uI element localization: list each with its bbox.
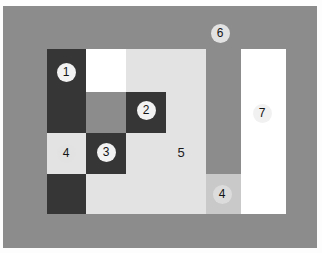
region-white-top: [86, 49, 126, 92]
region-label-5-l5: 5: [171, 144, 191, 162]
region-label-2-l2: 2: [137, 101, 156, 120]
region-light-bottom-left: [86, 174, 126, 214]
region-white-tall-column: [241, 49, 286, 214]
figure-stage: 12345674: [0, 0, 322, 253]
region-light-mid-right: [166, 92, 206, 133]
region-light-top-right: [126, 49, 206, 92]
region-label-1-l1: 1: [57, 63, 76, 82]
region-label-4-l4: 4: [57, 144, 76, 163]
region-label-3-l3: 3: [97, 143, 116, 162]
region-light-body: [126, 133, 206, 214]
region-dark-left-upper: [47, 49, 86, 133]
region-gray-notch: [86, 92, 126, 133]
region-label-4-l8: 4: [213, 185, 232, 204]
region-label-7-l7: 7: [253, 104, 272, 123]
region-label-6-l6: 6: [211, 24, 230, 43]
region-dark-left-lower: [47, 174, 86, 214]
